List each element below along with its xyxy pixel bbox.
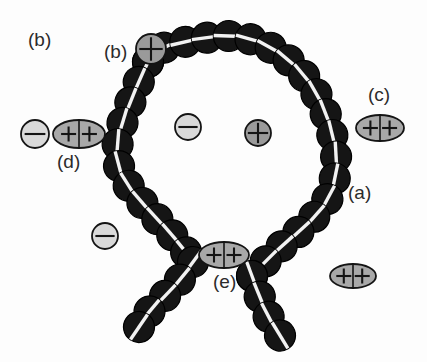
figure-canvas: (b)(b)(c)(d)(a)(e) bbox=[0, 0, 427, 362]
bridging-divalent-ion-c-divalent bbox=[356, 115, 404, 141]
condensed-counterion-b-bound-cation bbox=[136, 34, 166, 64]
annotation-label-c: (c) bbox=[368, 85, 390, 104]
bridging-divalent-ion-e-divalent bbox=[199, 242, 249, 268]
annotation-label-b-free: (b) bbox=[28, 30, 51, 49]
free-anion-outer-anion bbox=[92, 223, 118, 249]
free-divalent-cation-free-divalent bbox=[330, 264, 376, 288]
annotation-label-e: (e) bbox=[213, 272, 236, 291]
annotation-label-d: (d) bbox=[57, 152, 80, 171]
free-anion-inner-anion bbox=[175, 114, 201, 140]
annotation-label-b-bound: (b) bbox=[104, 42, 127, 61]
ion-pair-anion bbox=[21, 120, 49, 148]
chain-layer bbox=[100, 20, 353, 357]
polyelectrolyte-diagram bbox=[0, 0, 427, 362]
annotation-label-a: (a) bbox=[348, 183, 371, 202]
ion-pair-divalent-cation bbox=[53, 120, 105, 148]
free-cation-inner-cation bbox=[245, 120, 271, 146]
